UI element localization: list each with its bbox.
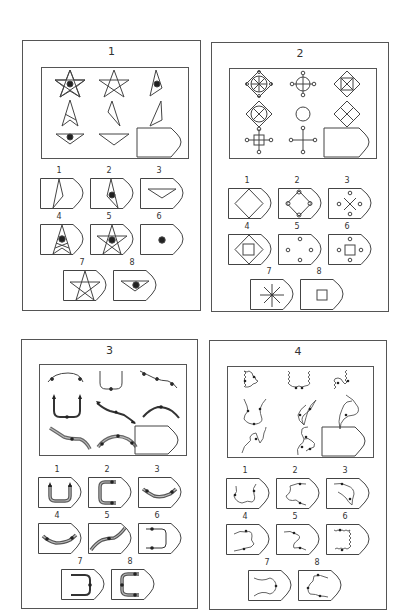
option-6[interactable]: 6	[138, 523, 184, 554]
option-8[interactable]: 8	[300, 279, 346, 310]
matrix-figures	[228, 367, 373, 457]
option-1[interactable]: 1	[228, 188, 274, 219]
option-4[interactable]: 4	[40, 224, 86, 255]
puzzle-matrix	[41, 67, 189, 159]
option-number: 3	[326, 466, 364, 475]
answer-slot	[322, 427, 365, 456]
option-5[interactable]: 5	[278, 234, 324, 265]
option-8[interactable]: 8	[298, 570, 344, 601]
option-number: 7	[248, 558, 286, 567]
option-5[interactable]: 5	[276, 524, 322, 555]
option-8[interactable]: 8	[111, 569, 157, 600]
option-number: 7	[61, 557, 99, 566]
option-3[interactable]: 3	[326, 478, 372, 509]
option-7[interactable]: 7	[61, 569, 107, 600]
answer-slot	[137, 128, 181, 157]
option-8[interactable]: 8	[113, 270, 159, 301]
puzzle-matrix	[39, 364, 187, 456]
puzzle-panel-2: 2	[211, 42, 389, 312]
option-number: 6	[138, 511, 176, 520]
option-number: 6	[326, 512, 364, 521]
option-number: 1	[38, 465, 76, 474]
option-number: 4	[40, 212, 78, 221]
option-3[interactable]: 3	[328, 188, 374, 219]
option-6[interactable]: 6	[326, 524, 372, 555]
option-number: 3	[140, 166, 178, 175]
option-number: 3	[138, 465, 176, 474]
option-number: 4	[38, 511, 76, 520]
option-2[interactable]: 2	[276, 478, 322, 509]
option-4[interactable]: 4	[228, 234, 274, 265]
option-number: 5	[90, 212, 128, 221]
option-4[interactable]: 4	[226, 524, 272, 555]
puzzle-title: 2	[212, 47, 388, 60]
option-number: 6	[140, 212, 178, 221]
option-1[interactable]: 1	[38, 477, 84, 508]
option-number: 2	[90, 166, 128, 175]
puzzle-matrix	[227, 366, 374, 458]
option-1[interactable]: 1	[226, 478, 272, 509]
option-1[interactable]: 1	[40, 178, 86, 209]
puzzle-title: 3	[22, 344, 197, 357]
answer-slot	[135, 426, 178, 454]
option-number: 6	[328, 222, 366, 231]
option-number: 8	[113, 258, 151, 267]
option-number: 2	[88, 465, 126, 474]
option-number: 8	[111, 557, 149, 566]
option-5[interactable]: 5	[88, 523, 134, 554]
option-number: 1	[226, 466, 264, 475]
option-number: 2	[278, 176, 316, 185]
option-4[interactable]: 4	[38, 523, 84, 554]
matrix-figures	[42, 68, 188, 158]
option-2[interactable]: 2	[88, 477, 134, 508]
puzzle-panel-3: 3	[21, 339, 198, 609]
option-number: 5	[88, 511, 126, 520]
option-5[interactable]: 5	[90, 224, 136, 255]
option-2[interactable]: 2	[278, 188, 324, 219]
option-number: 1	[40, 166, 78, 175]
option-number: 7	[250, 267, 288, 276]
option-number: 8	[300, 267, 338, 276]
puzzle-title: 4	[210, 345, 386, 358]
option-number: 2	[276, 466, 314, 475]
option-number: 4	[228, 222, 266, 231]
option-3[interactable]: 3	[140, 178, 186, 209]
puzzle-matrix	[229, 68, 377, 159]
answer-slot	[324, 128, 369, 157]
option-number: 4	[226, 512, 264, 521]
option-number: 3	[328, 176, 366, 185]
option-7[interactable]: 7	[63, 270, 109, 301]
puzzle-panel-4: 4	[209, 340, 387, 610]
matrix-figures	[40, 365, 186, 455]
option-6[interactable]: 6	[328, 234, 374, 265]
puzzle-title: 1	[23, 45, 200, 58]
option-number: 5	[278, 222, 316, 231]
option-number: 8	[298, 558, 336, 567]
option-number: 7	[63, 258, 101, 267]
option-2[interactable]: 2	[90, 178, 136, 209]
puzzle-panel-1: 1	[22, 40, 201, 311]
option-7[interactable]: 7	[248, 570, 294, 601]
option-number: 5	[276, 512, 314, 521]
option-6[interactable]: 6	[140, 224, 186, 255]
option-3[interactable]: 3	[138, 477, 184, 508]
option-7[interactable]: 7	[250, 279, 296, 310]
matrix-figures	[230, 69, 376, 158]
option-number: 1	[228, 176, 266, 185]
